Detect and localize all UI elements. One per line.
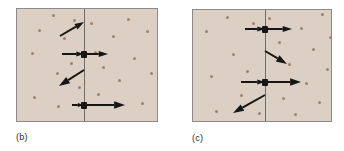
gas-molecule-dot [210,75,213,78]
gas-molecule-dot [33,96,36,99]
gas-molecule-dot [38,29,41,32]
particle-marker [81,102,87,109]
gas-molecule-dot [246,70,249,73]
gas-molecule-dot [133,57,136,60]
gas-molecule-dot [94,51,97,54]
gas-molecule-dot [63,37,66,40]
panel-c [192,9,332,122]
gas-molecule-dot [300,27,303,30]
gas-molecule-dot [258,112,261,115]
gas-molecule-dot [329,36,332,39]
gas-molecule-dot [150,72,153,75]
gas-molecule-dot [112,35,115,38]
gas-molecule-dot [146,30,149,33]
gas-molecule-dot [57,105,60,108]
gas-molecule-dot [321,13,324,16]
particle-marker [262,79,268,86]
gas-molecule-dot [52,14,55,17]
gas-molecule-dot [240,94,243,97]
gas-molecule-dot [252,22,255,25]
panel-b-box [16,8,158,122]
gas-molecule-dot [102,66,105,69]
gas-molecule-dot [294,113,297,116]
gas-molecule-dot [118,79,121,82]
panel-b [16,8,158,122]
gas-molecule-dot [78,86,81,89]
gas-molecule-dot [127,18,130,21]
gas-molecule-dot [268,17,271,20]
gas-molecule-dot [305,82,308,85]
gas-molecule-dot [318,101,321,104]
gas-molecule-dot [90,22,93,25]
gas-molecule-dot [141,102,144,105]
gas-molecule-dot [31,52,34,55]
gas-molecule-dot [312,48,315,51]
gas-molecule-dot [205,30,208,33]
gas-molecule-dot [70,62,73,65]
gas-molecule-dot [215,110,218,113]
figure-container: (b)(c) [0,0,344,151]
particle-marker [81,51,87,58]
gas-molecule-dot [282,97,285,100]
gas-molecule-dot [73,19,76,22]
particle-marker [262,26,268,33]
gas-molecule-dot [278,41,281,44]
gas-molecule-dot [232,53,235,56]
panel-c-label: (c) [192,133,203,143]
gas-molecule-dot [226,16,229,19]
gas-molecule-dot [56,72,59,75]
gas-molecule-dot [288,63,291,66]
panel-b-label: (b) [16,132,28,142]
gas-molecule-dot [97,93,100,96]
gas-molecule-dot [326,68,329,71]
